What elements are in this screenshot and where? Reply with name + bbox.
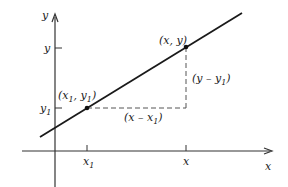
point-x1-y1 <box>85 106 90 111</box>
x-axis-label: x <box>265 160 272 173</box>
y-axis-label: y <box>41 9 49 22</box>
tick-label-x1: x1 <box>83 155 94 170</box>
tick-label-y: y <box>43 42 51 55</box>
point-label-x-y: (x, y) <box>159 34 187 47</box>
tick-label-y1: y1 <box>39 102 51 117</box>
run-label: (x – x1) <box>124 111 163 126</box>
slope-diagram: y x y y1 x1 x (x1, y1) (x, y) (x – x1) (… <box>0 0 288 187</box>
point-label-x1-y1: (x1, y1) <box>58 89 96 104</box>
tick-label-x: x <box>183 155 190 168</box>
rise-label: (y – y1) <box>192 72 231 87</box>
